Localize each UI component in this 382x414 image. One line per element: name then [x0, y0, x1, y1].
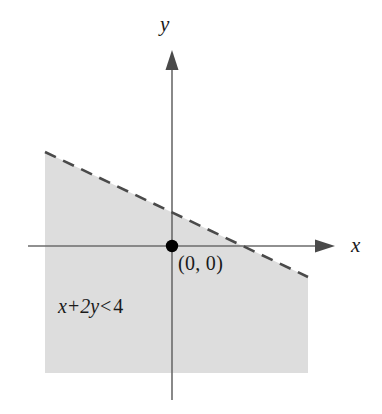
- graph-canvas: [0, 0, 382, 414]
- y-axis-label: y: [160, 14, 169, 35]
- x-axis-arrowhead: [315, 240, 335, 253]
- inequality-rhs: 4: [112, 295, 124, 317]
- inequality-lhs: x: [58, 295, 67, 317]
- inequality-less-than-operator: <: [99, 295, 112, 317]
- x-axis-label: x: [351, 235, 360, 256]
- inequality-plus-operator: +: [67, 295, 80, 317]
- y-axis-arrowhead: [166, 50, 179, 70]
- inequality-expression-label: x+2y<4: [58, 296, 124, 316]
- origin-coordinate-label: (0, 0): [178, 253, 223, 273]
- inequality-graph-figure: y x (0, 0) x+2y<4: [0, 0, 382, 414]
- shaded-solution-region: [45, 152, 308, 373]
- inequality-second-term: 2y: [80, 295, 99, 317]
- origin-point-dot: [166, 240, 178, 252]
